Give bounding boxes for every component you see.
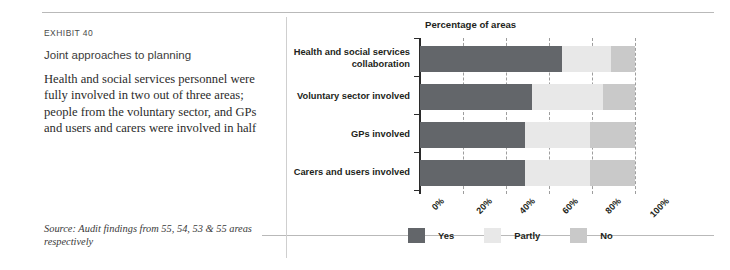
bar-segment-yes <box>420 84 532 110</box>
legend-label: No <box>600 230 613 241</box>
y-axis-tick <box>414 152 420 153</box>
x-axis-tick-label: 80% <box>603 196 623 216</box>
exhibit-title: Joint approaches to planning <box>44 49 269 61</box>
legend-swatch-partly <box>484 228 501 243</box>
bar-row <box>420 84 635 110</box>
bar-segment-partly <box>525 122 590 148</box>
y-axis-tick <box>414 190 420 191</box>
legend-swatch-no <box>570 228 587 243</box>
bar-segment-yes <box>420 160 525 186</box>
x-axis-tick-label: 20% <box>474 196 494 216</box>
legend-label: Yes <box>438 230 454 241</box>
value-axis-labels: 0%20%40%60%80%100% <box>420 196 650 230</box>
category-label: Carers and users involved <box>286 167 410 179</box>
stacked-bar-chart: Percentage of areas Health and social se… <box>286 14 730 258</box>
category-label: Health and social services collaboration <box>286 47 410 70</box>
legend-item-no[interactable]: No <box>570 228 613 243</box>
legend-item-yes[interactable]: Yes <box>408 228 454 243</box>
legend-item-partly[interactable]: Partly <box>484 228 540 243</box>
y-axis-tick <box>414 114 420 115</box>
x-axis-tick-label: 40% <box>517 196 537 216</box>
plot-area <box>420 40 635 192</box>
chart-title: Percentage of areas <box>425 19 516 30</box>
exhibit-number: EXHIBIT 40 <box>44 28 269 38</box>
bar-segment-yes <box>420 46 562 72</box>
x-axis-tick-label: 100% <box>648 196 671 219</box>
x-axis-tick-label: 0% <box>430 196 446 212</box>
bar-segment-partly <box>532 84 603 110</box>
y-axis-tick <box>414 76 420 77</box>
bar-row <box>420 160 635 186</box>
gridline <box>635 38 636 194</box>
exhibit-text-column: EXHIBIT 40 Joint approaches to planning … <box>44 28 269 137</box>
legend-swatch-yes <box>408 228 425 243</box>
legend-label: Partly <box>514 230 540 241</box>
category-label: GPs involved <box>286 129 410 141</box>
bar-row <box>420 122 635 148</box>
exhibit-card: EXHIBIT 40 Joint approaches to planning … <box>0 0 730 270</box>
bar-segment-no <box>611 46 635 72</box>
exhibit-description: Health and social services personnel wer… <box>44 71 269 137</box>
bar-segment-no <box>590 122 635 148</box>
category-label: Voluntary sector involved <box>286 91 410 103</box>
bar-rows <box>420 40 635 192</box>
bar-segment-yes <box>420 122 525 148</box>
bar-segment-partly <box>525 160 590 186</box>
exhibit-source: Source: Audit findings from 55, 54, 53 &… <box>44 222 274 249</box>
chart-legend: YesPartlyNo <box>408 228 643 243</box>
y-axis-tick <box>414 38 420 39</box>
x-axis-tick-label: 60% <box>560 196 580 216</box>
category-axis-labels: Health and social services collaboration… <box>286 40 416 192</box>
top-rule <box>42 12 714 13</box>
bar-row <box>420 46 635 72</box>
bar-segment-partly <box>562 46 611 72</box>
bar-segment-no <box>590 160 635 186</box>
bar-segment-no <box>603 84 635 110</box>
